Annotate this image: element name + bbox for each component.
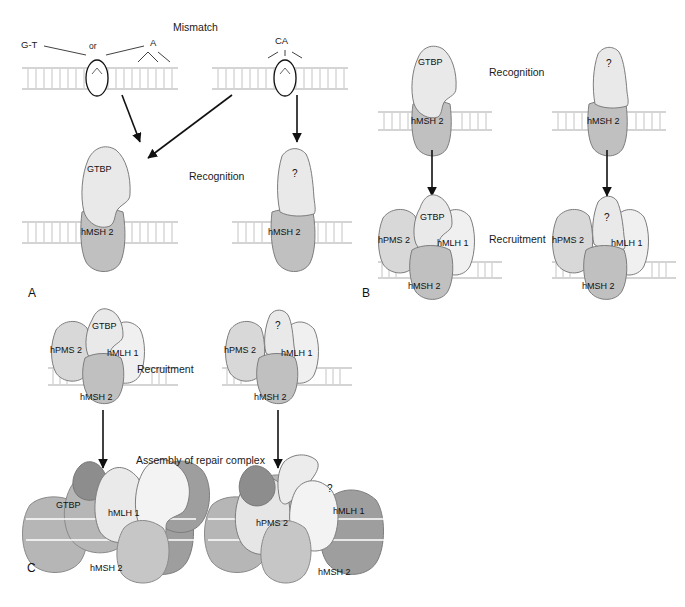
panel-a-arrow-diagonal	[148, 95, 232, 158]
panel-a-right-dna	[212, 50, 348, 96]
panel-a-arrow-left	[122, 95, 140, 142]
panel-c-right-assembly-complex	[205, 455, 387, 583]
diagram-svg	[0, 0, 685, 607]
panel-a-right-recognition-complex	[232, 149, 352, 272]
panel-c-group	[23, 309, 387, 583]
panel-c-left-recruitment-complex	[48, 309, 178, 404]
panel-b-right-recognition-complex	[552, 47, 666, 156]
panel-c-left-assembly-complex	[23, 460, 210, 583]
panel-b-left-recognition-complex	[378, 46, 492, 156]
panel-a-left-dna	[22, 46, 178, 96]
figure-canvas: G-T or A Mismatch CA GTBP hMSH 2 ? hMSH …	[0, 0, 685, 607]
panel-b-left-recruitment-complex	[378, 195, 502, 300]
panel-b-right-recruitment-complex	[552, 196, 676, 299]
panel-c-right-recruitment-complex	[222, 310, 352, 404]
panel-b-group	[378, 46, 676, 299]
panel-a-left-recognition-complex	[22, 147, 178, 272]
panel-a-group	[22, 46, 352, 272]
